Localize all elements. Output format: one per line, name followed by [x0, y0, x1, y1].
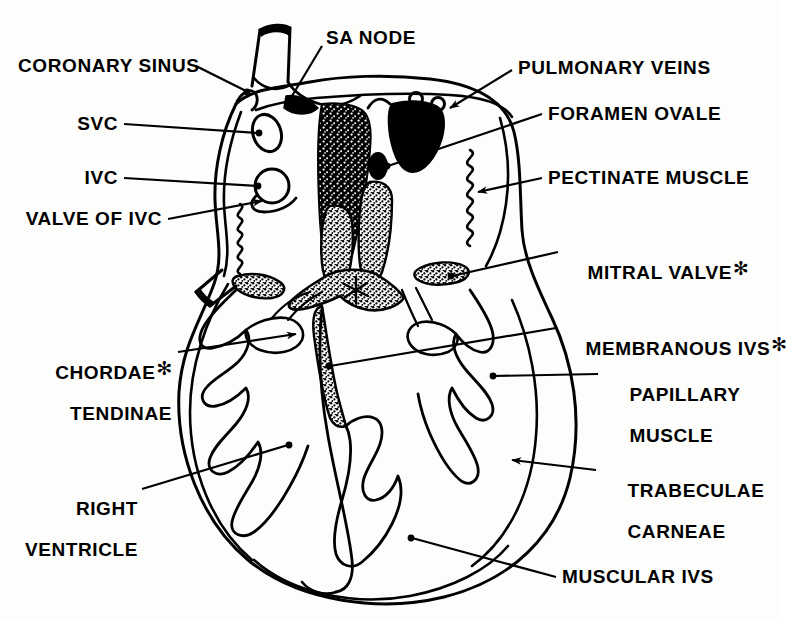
- label-papillary-muscle: PAPILLARY MUSCLE: [606, 364, 740, 467]
- leader-coronary-sinus: [196, 66, 246, 91]
- label-membranous-ivs-text: MEMBRANOUS IVS: [586, 338, 771, 359]
- label-right-ventricle: RIGHT VENTRICLE: [0, 478, 138, 581]
- leader-dot-papillary-muscle: [490, 373, 497, 380]
- label-sa-node: SA NODE: [326, 28, 416, 49]
- svc-tube-lumen-left: [254, 78, 288, 89]
- label-muscular-ivs: MUSCULAR IVS: [562, 567, 714, 588]
- label-pectinate-muscle: PECTINATE MUSCLE: [548, 168, 749, 189]
- leader-dot-foramen-ovale: [384, 163, 391, 170]
- papillary-muscle-line-1: PAPILLARY: [630, 384, 741, 405]
- septum-secundum-crest: [368, 99, 390, 108]
- leader-membranous-ivs: [330, 328, 556, 366]
- tricuspid-valve-leaflet: [233, 274, 285, 298]
- leader-ivc: [124, 178, 257, 186]
- trabeculae-carneae-line-1: TRABECULAE: [628, 480, 765, 501]
- leader-pulmonary-veins: [450, 70, 512, 108]
- muscular-ivs: [334, 417, 400, 566]
- membranous-ivs-asterisk: ✻: [771, 334, 788, 355]
- leader-mitral-valve: [452, 252, 558, 276]
- label-pulmonary-veins: PULMONARY VEINS: [518, 58, 711, 79]
- leader-dot-svc: [256, 130, 263, 137]
- leader-dot-membranous-ivs: [326, 363, 333, 370]
- papillary-muscle-line-2: MUSCLE: [630, 425, 714, 446]
- right-atrium-inner-wall: [224, 112, 241, 276]
- right-ventricle-line-1: RIGHT: [76, 498, 138, 519]
- lv-chordae: [402, 288, 432, 326]
- label-mitral-valve-text: MITRAL VALVE: [588, 262, 732, 283]
- chordae-asterisk: ✻: [156, 358, 173, 379]
- label-valve-of-ivc: VALVE OF IVC: [10, 209, 162, 230]
- leader-sa-node: [292, 46, 322, 96]
- leader-dot-coronary-sinus: [244, 89, 251, 96]
- leader-trabeculae-carneae: [512, 460, 596, 470]
- pectinate-muscle-right-atrium: [238, 204, 243, 274]
- mitral-valve-asterisk: ✻: [733, 258, 750, 279]
- leader-dot-mitral-valve: [448, 273, 455, 280]
- leader-pectinate-muscle: [478, 178, 542, 192]
- label-ivc: IVC: [58, 168, 118, 189]
- right-ventricle-line-2: VENTRICLE: [25, 539, 138, 560]
- svc-tube: [252, 28, 290, 86]
- right-ventricle-free-wall-inner: [190, 284, 252, 560]
- label-trabeculae-carneae: TRABECULAE CARNEAE: [604, 460, 764, 563]
- chordae-line-2: TENDINAE: [70, 403, 172, 424]
- leader-dot-right-ventricle: [286, 442, 293, 449]
- label-foramen-ovale: FORAMEN OVALE: [548, 104, 721, 125]
- trabeculae-carneae-line-2: CARNEAE: [628, 521, 726, 542]
- septum-column-right: [359, 182, 392, 282]
- label-mitral-valve: MITRAL VALVE✻: [564, 242, 748, 304]
- leader-svc: [124, 124, 258, 133]
- mitral-valve-leaflets: [289, 270, 404, 311]
- chordae-line-1: CHORDAE: [55, 362, 155, 383]
- leader-right-ventricle: [142, 445, 288, 489]
- interatrial-septum-right-mass: [389, 101, 444, 172]
- left-ventricle-trabeculated-wall: [418, 290, 493, 483]
- right-ventricle-trabeculated-wall: [200, 290, 308, 536]
- leader-dot-ivc: [255, 183, 262, 190]
- label-svc: SVC: [58, 114, 118, 135]
- pectinate-muscle-left-atrium: [467, 150, 473, 246]
- label-coronary-sinus: CORONARY SINUS: [18, 56, 193, 77]
- label-chordae-tendinae: CHORDAE✻ TENDINAE: [0, 342, 172, 445]
- leader-dot-muscular-ivs: [408, 535, 415, 542]
- left-atrium-inner-wall: [486, 118, 508, 266]
